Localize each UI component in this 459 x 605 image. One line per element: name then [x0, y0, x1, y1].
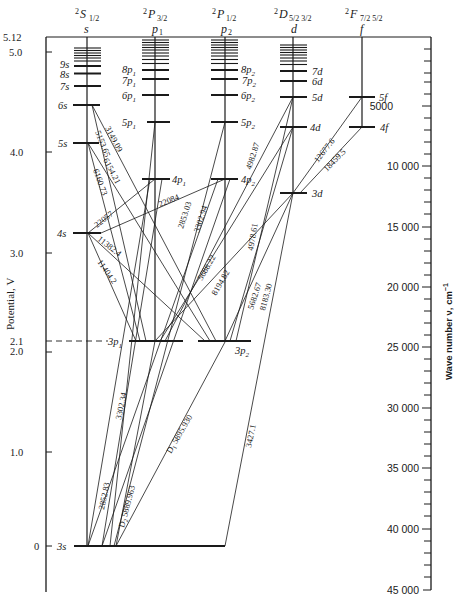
svg-text:P: P — [216, 7, 225, 21]
svg-text:5p1: 5p1 — [122, 117, 136, 131]
svg-text:S: S — [80, 7, 86, 21]
header-f: 2 F 7/2 5/2 f — [345, 7, 382, 36]
svg-text:3/2: 3/2 — [157, 14, 167, 23]
tick-30000: 30 000 — [387, 402, 419, 414]
svg-text:6p1: 6p1 — [122, 90, 136, 104]
svg-text:4982.87: 4982.87 — [243, 141, 261, 170]
tick-3-0: 3.0 — [10, 248, 23, 259]
svg-text:3302.94: 3302.94 — [191, 204, 209, 234]
tick-10000: 10 000 — [387, 160, 419, 172]
svg-text:p: p — [220, 22, 227, 36]
svg-text:1/2: 1/2 — [226, 14, 236, 23]
tick-1-0: 1.0 — [10, 447, 23, 458]
svg-text:4s: 4s — [57, 228, 66, 239]
svg-text:2: 2 — [345, 7, 349, 16]
header-p1: 2 P 3/2 p 1 — [143, 7, 167, 37]
svg-text:6d: 6d — [312, 76, 323, 87]
tick-0: 0 — [34, 541, 39, 552]
grotrian-diagram: 2 S 1/2 s 2 P 3/2 p 1 2 P 1/2 p 2 2 D 5/… — [0, 0, 459, 605]
svg-text:8194.82: 8194.82 — [209, 268, 231, 297]
tick-20000: 20 000 — [387, 281, 419, 293]
svg-text:6s: 6s — [58, 100, 67, 111]
tick-5-12: 5.12 — [3, 32, 21, 43]
svg-text:9s: 9s — [60, 59, 69, 70]
svg-text:3s: 3s — [56, 541, 66, 552]
svg-text:7s: 7s — [60, 81, 69, 92]
svg-text:5d: 5d — [312, 92, 323, 103]
svg-text:4d: 4d — [310, 122, 321, 133]
svg-text:p: p — [151, 22, 158, 36]
tick-2-0: 2.0 — [10, 346, 23, 357]
svg-text:11382.4: 11382.4 — [96, 234, 124, 259]
svg-text:3p1: 3p1 — [107, 336, 122, 350]
svg-text:4f: 4f — [380, 122, 390, 133]
svg-text:7/2 5/2: 7/2 5/2 — [360, 14, 382, 23]
left-axis-label: Potential, V — [4, 278, 16, 330]
svg-text:D15895.930: D15895.930 — [164, 413, 195, 456]
svg-text:11404.2: 11404.2 — [95, 257, 119, 285]
svg-text:D: D — [278, 7, 288, 21]
svg-text:f: f — [360, 22, 365, 36]
svg-text:6p2: 6p2 — [241, 90, 256, 104]
svg-text:2: 2 — [143, 7, 147, 16]
svg-text:3p2: 3p2 — [234, 345, 250, 359]
svg-text:4p1: 4p1 — [172, 174, 186, 188]
svg-text:8s: 8s — [60, 69, 69, 80]
tick-5-0: 5.0 — [9, 47, 22, 58]
tick-4-0: 4.0 — [10, 147, 23, 158]
svg-text:P: P — [147, 7, 156, 21]
svg-text:2: 2 — [274, 7, 278, 16]
svg-text:3302.34: 3302.34 — [113, 391, 129, 421]
svg-text:d: d — [291, 22, 298, 36]
svg-text:7d: 7d — [312, 66, 323, 77]
tick-25000: 25 000 — [387, 341, 419, 353]
header-d: 2 D 5/2 3/2 d — [274, 7, 311, 36]
tick-40000: 40 000 — [387, 523, 419, 535]
header-s: 2 S 1/2 s — [75, 7, 99, 36]
svg-text:3427.1: 3427.1 — [243, 423, 258, 448]
right-axis-label: Wave number ν, cm−1 — [442, 283, 454, 380]
svg-text:2: 2 — [75, 7, 79, 16]
svg-text:2: 2 — [228, 28, 232, 37]
svg-text:3d: 3d — [311, 188, 323, 199]
column-headers: 2 S 1/2 s 2 P 3/2 p 1 2 P 1/2 p 2 2 D 5/… — [75, 7, 382, 37]
svg-text:5s: 5s — [58, 138, 67, 149]
header-p2: 2 P 1/2 p 2 — [212, 7, 236, 37]
svg-text:4p2: 4p2 — [241, 174, 256, 188]
tick-35000: 35 000 — [387, 462, 419, 474]
svg-text:D25889.963: D25889.963 — [116, 484, 138, 528]
series-limit-bands — [74, 40, 307, 65]
svg-text:5p2: 5p2 — [241, 117, 256, 131]
svg-text:1: 1 — [159, 28, 163, 37]
svg-text:22057: 22057 — [92, 209, 115, 230]
left-axis: 5.12 5.0 4.0 3.0 2.1 2.0 1.0 0 Potential… — [3, 32, 52, 552]
svg-text:1/2: 1/2 — [89, 14, 99, 23]
svg-text:s: s — [84, 22, 89, 36]
svg-text:F: F — [349, 7, 358, 21]
tick-45000: 45 000 — [387, 584, 419, 596]
svg-text:2: 2 — [212, 7, 216, 16]
tick-15000: 15 000 — [387, 221, 419, 233]
svg-text:22084: 22084 — [157, 191, 181, 209]
svg-text:Wave number ν, cm−1: Wave number ν, cm−1 — [442, 283, 454, 380]
svg-text:2853.03: 2853.03 — [175, 200, 193, 229]
